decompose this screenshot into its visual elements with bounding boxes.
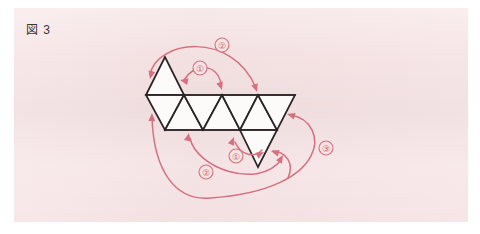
- fold-3-right-badge-label: ③: [322, 144, 330, 154]
- fold-2-top-badge-label: ②: [218, 41, 226, 51]
- fold-2-bottom-tail-arrow-curve: [273, 151, 290, 178]
- fold-2-bottom-badge-label: ②: [202, 168, 210, 178]
- fold-1-bottom-badge-label: ①: [232, 152, 240, 162]
- head-1-top-left-arrowhead-icon: [179, 77, 188, 85]
- head-2-top-right-arrowhead-icon: [251, 83, 260, 93]
- fold-2-bottom-tail-arrow: [270, 148, 290, 178]
- head-3-top-arrowhead-icon: [286, 111, 296, 120]
- face-bottom-apex: [240, 130, 277, 167]
- fold-1-top: ①: [179, 61, 225, 91]
- figure-artwork: ①②①②③: [0, 0, 480, 234]
- fold-1-top-badge-label: ①: [196, 64, 204, 74]
- head-1-top-right-arrowhead-icon: [216, 81, 225, 91]
- head-apex-right-arrowhead-icon: [270, 148, 280, 157]
- head-3-bottom-arrowhead-icon: [148, 113, 155, 121]
- figure-root: 図 3 ①②①②③: [0, 0, 480, 234]
